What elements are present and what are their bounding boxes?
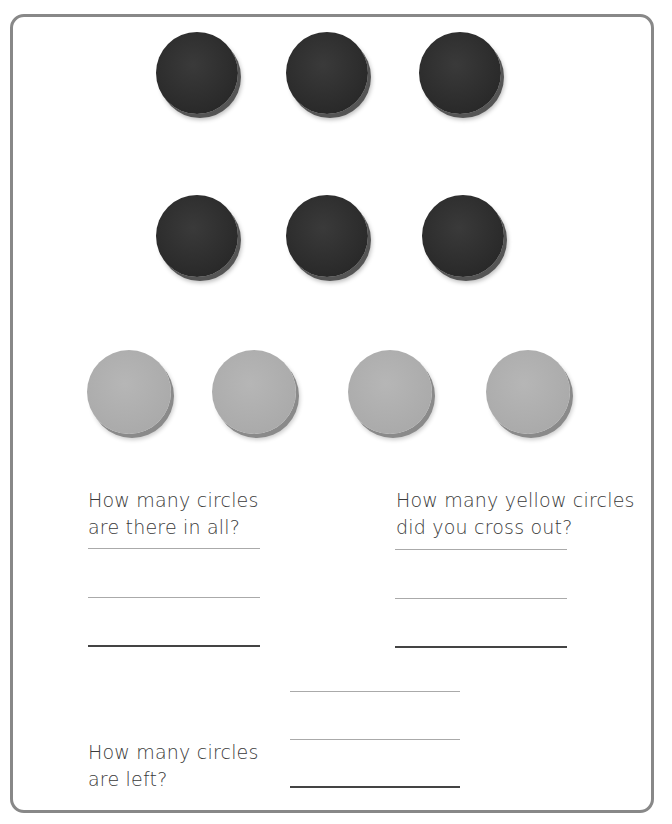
question-total-line2: are there in all?: [88, 514, 259, 541]
answer-crossed-out-guide: [395, 598, 567, 599]
dark-circle[interactable]: [419, 32, 501, 114]
question-crossed-out-line1: How many yellow circles: [396, 487, 635, 514]
answer-total-line[interactable]: [88, 645, 260, 647]
question-left: How many circles are left?: [88, 739, 259, 793]
question-total: How many circles are there in all?: [88, 487, 259, 541]
answer-left-mid-guide: [290, 739, 460, 740]
question-crossed-out-line2: did you cross out?: [396, 514, 635, 541]
answer-left-line[interactable]: [290, 786, 460, 788]
dark-circle[interactable]: [156, 32, 238, 114]
answer-left-top-guide: [290, 691, 460, 692]
question-left-line1: How many circles: [88, 739, 259, 766]
dark-circle[interactable]: [286, 32, 368, 114]
question-left-line2: are left?: [88, 766, 259, 793]
answer-crossed-out-line[interactable]: [395, 646, 567, 648]
dark-circle[interactable]: [286, 195, 368, 277]
question-total-line1: How many circles: [88, 487, 259, 514]
yellow-circle[interactable]: [87, 350, 171, 434]
dark-circle[interactable]: [422, 195, 504, 277]
question-crossed-out-underline: [395, 549, 567, 550]
question-crossed-out: How many yellow circles did you cross ou…: [396, 487, 635, 541]
yellow-circle[interactable]: [212, 350, 296, 434]
yellow-circle[interactable]: [348, 350, 432, 434]
dark-circle[interactable]: [156, 195, 238, 277]
yellow-circle[interactable]: [486, 350, 570, 434]
answer-total-guide: [88, 597, 260, 598]
question-total-underline: [88, 548, 260, 549]
